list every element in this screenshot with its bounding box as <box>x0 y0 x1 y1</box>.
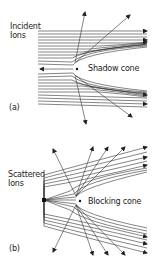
target-atom-b <box>79 200 81 202</box>
scattered-ions-label-line1: Scattered <box>8 170 45 179</box>
shadow-cone-label: Shadow cone <box>88 64 139 73</box>
source-point-b <box>42 198 46 202</box>
incident-ions-label-line2: Ions <box>10 31 26 40</box>
panel-a-id: (a) <box>9 103 20 112</box>
trajectory-diagram <box>0 0 158 268</box>
blocking-cone-label: Blocking cone <box>88 197 141 206</box>
panel-b-id: (b) <box>9 244 20 253</box>
incident-ions-label-line1: Incident <box>10 22 41 31</box>
target-atom-a <box>76 68 78 70</box>
scattered-ions-label-line2: Ions <box>8 179 24 188</box>
